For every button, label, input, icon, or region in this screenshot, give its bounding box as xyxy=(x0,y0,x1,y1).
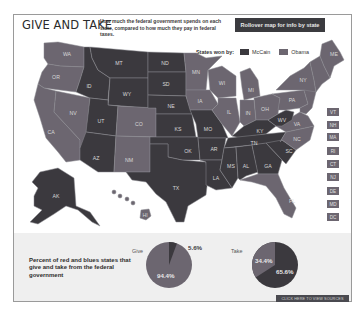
give-pie-chart xyxy=(146,242,192,288)
give-obama-pct: 94.4% xyxy=(157,272,175,279)
label-oh: OH xyxy=(261,106,269,112)
label-ca: CA xyxy=(47,129,55,135)
state-mi[interactable] xyxy=(240,68,260,100)
label-wy: WY xyxy=(123,91,132,97)
label-ia: IA xyxy=(198,98,203,104)
label-sd: SD xyxy=(162,81,169,87)
state-fl[interactable] xyxy=(240,174,296,218)
label-ar: AR xyxy=(210,146,217,152)
state-ak[interactable] xyxy=(30,168,100,226)
state-or[interactable] xyxy=(38,64,84,92)
state-button-ma[interactable]: MA xyxy=(327,133,339,141)
state-button-nj[interactable]: NJ xyxy=(327,173,339,181)
label-ak: AK xyxy=(53,193,60,199)
label-ms: MS xyxy=(227,163,235,169)
state-hi-island xyxy=(112,190,116,194)
state-hi-island xyxy=(131,201,135,205)
label-nv: NV xyxy=(69,110,77,116)
label-ne: NE xyxy=(167,103,175,109)
state-hi-island xyxy=(125,197,129,201)
state-button-nh[interactable]: NH xyxy=(327,121,339,129)
label-wa: WA xyxy=(63,51,72,57)
label-la: LA xyxy=(213,175,220,181)
view-sources-link[interactable]: CLICK HERE TO VIEW SOURCES xyxy=(276,295,349,302)
state-ny[interactable] xyxy=(276,62,316,94)
label-al: AL xyxy=(243,163,249,169)
label-ga: GA xyxy=(264,163,272,169)
label-tx: TX xyxy=(173,185,180,191)
state-hi-island xyxy=(118,194,122,198)
pie-description: Percent of red and blues states that giv… xyxy=(29,257,134,279)
take-pie-chart xyxy=(252,242,298,288)
label-il: IL xyxy=(227,109,231,115)
label-mi: MI xyxy=(248,87,254,93)
label-in: IN xyxy=(245,110,250,116)
label-ny: NY xyxy=(299,77,307,83)
label-nd: ND xyxy=(161,60,169,66)
state-button-ri[interactable]: RI xyxy=(327,147,339,155)
take-mccain-pct: 65.6% xyxy=(276,268,294,275)
label-co: CO xyxy=(135,121,143,127)
give-mccain-pct: 5.6% xyxy=(188,244,202,251)
label-ky: KY xyxy=(257,128,264,134)
label-az: AZ xyxy=(93,155,100,161)
label-wi: WI xyxy=(219,80,225,86)
take-label: Take xyxy=(231,248,242,254)
state-button-de[interactable]: DE xyxy=(327,187,339,195)
label-mo: MO xyxy=(204,126,212,132)
label-wv: WV xyxy=(278,117,287,123)
label-hi: HI xyxy=(142,212,147,218)
label-me: ME xyxy=(330,51,338,57)
label-va: VA xyxy=(294,121,301,127)
label-ok: OK xyxy=(184,148,192,154)
label-nm: NM xyxy=(125,157,133,163)
state-button-md[interactable]: MD xyxy=(327,200,339,208)
take-obama-pct: 34.4% xyxy=(255,257,273,264)
label-tn: TN xyxy=(251,140,258,146)
label-ks: KS xyxy=(175,126,182,132)
state-button-vt[interactable]: VT xyxy=(327,108,339,116)
label-mt: MT xyxy=(115,60,123,66)
give-label: Give xyxy=(132,248,143,254)
state-az[interactable] xyxy=(80,132,116,172)
label-fl: FL xyxy=(289,198,295,204)
label-id: ID xyxy=(86,83,91,89)
label-ut: UT xyxy=(98,118,106,124)
label-pa: PA xyxy=(289,97,296,103)
state-button-dc[interactable]: DC xyxy=(327,213,339,221)
label-nc: NC xyxy=(293,136,301,142)
label-sc: SC xyxy=(285,148,292,154)
state-nm[interactable] xyxy=(114,136,150,172)
state-button-ct[interactable]: CT xyxy=(327,160,339,168)
label-or: OR xyxy=(52,74,60,80)
label-mn: MN xyxy=(192,69,200,75)
